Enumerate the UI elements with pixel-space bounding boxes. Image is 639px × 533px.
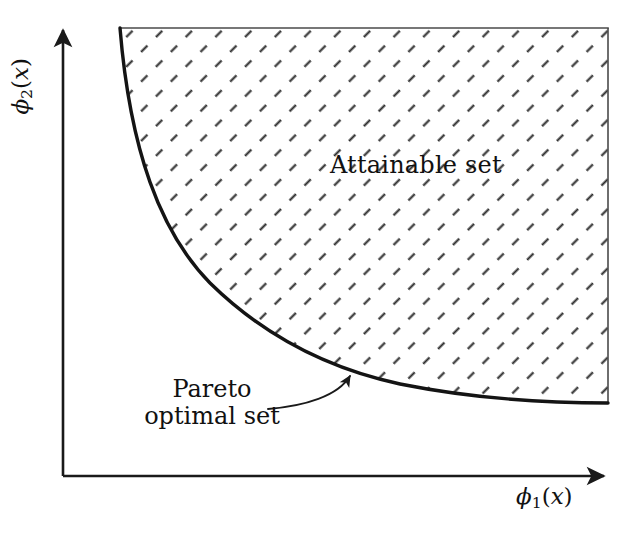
attainable-set-label: Attainable set (330, 152, 502, 179)
pareto-label-line-2: optimal set (132, 403, 292, 430)
figure-canvas (0, 0, 639, 533)
pareto-optimal-set-label: Pareto optimal set (132, 376, 292, 430)
x-axis-label-argument: (x) (542, 483, 573, 509)
x-axis-label-symbol: ϕ (516, 483, 532, 509)
pareto-label-line-1: Pareto (132, 376, 292, 403)
x-axis-label-subscript: 1 (532, 493, 542, 512)
attainable-set-hatch-fill (110, 20, 620, 415)
y-axis-label-subscript: 2 (17, 89, 36, 99)
x-axis-label: ϕ1(x) (516, 484, 573, 512)
pareto-frontier-figure: Attainable set Pareto optimal set ϕ2(x) … (0, 0, 639, 533)
y-axis-label-symbol: ϕ (7, 99, 33, 115)
y-axis-label: ϕ2(x) (8, 58, 36, 115)
y-axis-label-argument: (x) (7, 58, 33, 89)
